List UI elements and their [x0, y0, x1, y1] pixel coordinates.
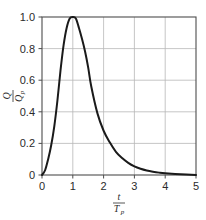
unit-hydrograph-plot: 0 1 2 3 4 5 0 0.2 0.4 0.6 0.8 1.0 Q Q p … [0, 0, 206, 220]
ytick-label-0-4: 0.4 [20, 106, 35, 118]
y-axis-label-denominator: Q [13, 94, 24, 102]
xtick-label-5: 5 [193, 180, 199, 192]
ytick-label-0-8: 0.8 [20, 43, 35, 55]
y-axis-label-denominator-subscript: p [18, 90, 26, 95]
ytick-label-0-6: 0.6 [20, 74, 35, 86]
ytick-label-0-2: 0.2 [20, 137, 35, 149]
xtick-label-2: 2 [101, 180, 107, 192]
x-axis-label-numerator: t [118, 191, 121, 202]
xtick-label-1: 1 [70, 180, 76, 192]
xtick-label-4: 4 [162, 180, 168, 192]
ytick-label-0: 0 [29, 169, 35, 181]
chart-figure: 0 1 2 3 4 5 0 0.2 0.4 0.6 0.8 1.0 Q Q p … [0, 0, 206, 220]
xtick-label-3: 3 [131, 180, 137, 192]
ytick-label-1-0: 1.0 [20, 11, 35, 23]
x-axis-label-denominator-subscript: p [120, 208, 125, 216]
xtick-label-0: 0 [39, 180, 45, 192]
y-axis-label-numerator: Q [1, 92, 12, 100]
